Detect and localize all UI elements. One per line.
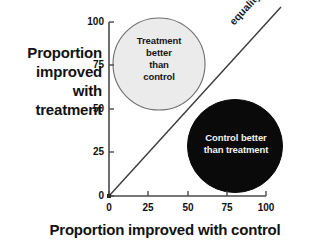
x-tick-label-100: 100 [249,203,283,213]
treatment-region-label: Treatment better than control [120,35,198,83]
y-tick-label-50: 50 [70,104,104,114]
x-axis-title: Proportion improved with control [0,221,330,238]
y-tick-label-75: 75 [70,60,104,70]
treatment-region-label-line-4: control [120,71,198,83]
control-region-label-line-1: Control better [192,132,280,144]
y-tick-label-0: 0 [70,191,104,201]
x-tick-label-50: 50 [171,203,205,213]
x-tick-label-75: 75 [210,203,244,213]
y-tick-label-25: 25 [70,147,104,157]
control-region-label-line-2: than treatment [192,144,280,156]
x-tick-label-25: 25 [131,203,165,213]
treatment-region-label-line-1: Treatment [120,35,198,47]
control-region-label: Control better than treatment [192,132,280,156]
y-tick-label-100: 100 [70,17,104,27]
chart-figure: Proportion improved with treatment Propo… [0,0,330,244]
x-tick-label-0: 0 [92,203,126,213]
y-axis-title-line-3: with [2,81,102,100]
treatment-region-label-line-2: better [120,47,198,59]
origin-marker [107,194,111,198]
treatment-region-label-line-3: than [120,59,198,71]
